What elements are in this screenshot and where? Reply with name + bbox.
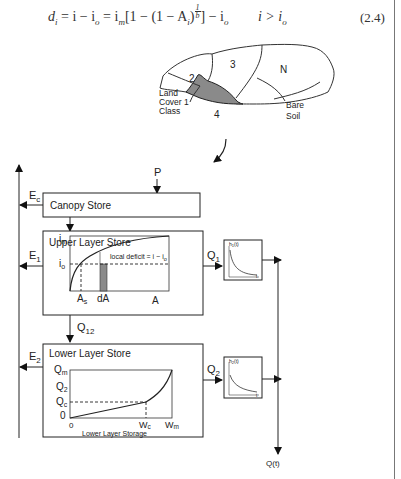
region-4-to-model-arrow <box>214 139 226 162</box>
a-label: A <box>152 295 159 306</box>
catchment-outline <box>160 44 334 104</box>
model-diagram: 2 3 N Land Cover 1 Class 4 Bare Soil P C… <box>0 0 401 479</box>
lower-storage-axis-title: Lower Layer Storage <box>82 430 147 438</box>
q12-label: Q12 <box>77 321 95 336</box>
da-label: dA <box>97 293 110 304</box>
canopy-store-title: Canopy Store <box>50 200 112 211</box>
h1-label: h1(t) <box>229 241 239 248</box>
zero-x-label: 0 <box>69 421 74 430</box>
routing-box-1: h1(t) t <box>224 240 262 280</box>
ec-label: Ec <box>29 189 40 204</box>
da-strip <box>100 264 107 291</box>
region-label-land-cover-1c: Class <box>159 106 180 116</box>
h2-label: h2(t) <box>229 358 239 365</box>
zero-y-label: 0 <box>60 410 66 421</box>
lower-store-title: Lower Layer Store <box>49 348 131 359</box>
precip-label: P <box>154 166 161 178</box>
qt-label: Q(t) <box>266 459 280 468</box>
e2-label: E2 <box>29 350 41 365</box>
region-label-bare-b: Soil <box>286 111 300 121</box>
q1-label: Q1 <box>207 249 221 264</box>
region-label-bare-a: Bare <box>286 100 304 110</box>
region-label-3: 3 <box>230 59 236 70</box>
e1-label: E1 <box>29 249 41 264</box>
region-label-4: 4 <box>214 109 220 120</box>
routing-box-2: h2(t) t <box>224 357 262 398</box>
region-label-2: 2 <box>189 73 195 84</box>
catchment-map <box>160 44 334 104</box>
region-label-N: N <box>280 64 287 75</box>
q2-label: Q2 <box>207 363 221 378</box>
